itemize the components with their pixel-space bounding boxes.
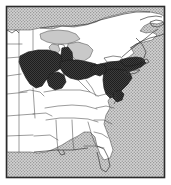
map-canvas xyxy=(0,0,171,185)
map-figure: Eastern United States Atlantic Ocean / G… xyxy=(0,0,171,185)
